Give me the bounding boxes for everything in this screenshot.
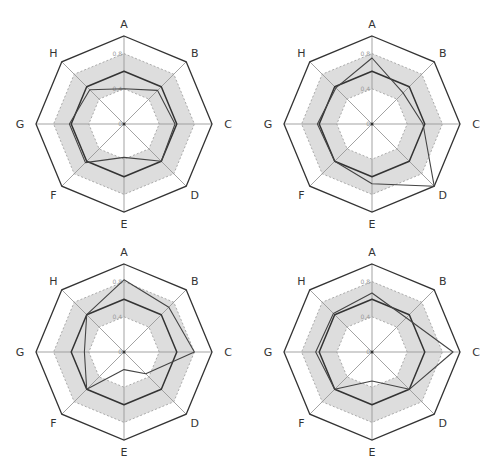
tick-label: 0	[118, 120, 122, 127]
axis-label-h: H	[297, 47, 305, 60]
radar-chart-grid: 00.40.8ABCDEFGH 00.40.8ABCDEFGH 00.40.8A…	[0, 0, 495, 472]
tick-label: 0.4	[112, 85, 122, 92]
axis-label-d: D	[438, 417, 446, 430]
axis-label-d: D	[190, 189, 198, 202]
radar-svg: 00.40.8ABCDEFGH	[248, 0, 495, 236]
axis-label-b: B	[439, 275, 447, 288]
axis-label-a: A	[368, 18, 376, 31]
axis-label-a: A	[120, 246, 128, 259]
tick-label: 0.8	[360, 278, 370, 285]
axis-label-d: D	[438, 189, 446, 202]
radar-svg: 00.40.8ABCDEFGH	[0, 0, 248, 236]
axis-label-h: H	[49, 275, 57, 288]
axis-label-c: C	[224, 118, 232, 131]
radar-svg: 00.40.8ABCDEFGH	[0, 228, 248, 464]
axis-label-c: C	[472, 346, 480, 359]
axis-label-g: G	[264, 118, 273, 131]
tick-label: 0.8	[112, 50, 122, 57]
axis-label-b: B	[439, 47, 447, 60]
axis-label-h: H	[49, 47, 57, 60]
tick-label: 0.8	[360, 50, 370, 57]
axis-label-d: D	[190, 417, 198, 430]
tick-label: 0.4	[360, 85, 370, 92]
axis-label-g: G	[264, 346, 273, 359]
axis-label-f: F	[50, 417, 56, 430]
axis-label-a: A	[120, 18, 128, 31]
radar-chart-4: 00.40.8ABCDEFGH	[248, 228, 495, 464]
axis-label-f: F	[50, 189, 56, 202]
radar-chart-2: 00.40.8ABCDEFGH	[248, 0, 495, 236]
axis-label-c: C	[472, 118, 480, 131]
axis-label-f: F	[298, 417, 304, 430]
center-point	[123, 351, 126, 354]
tick-label: 0.4	[360, 313, 370, 320]
axis-label-b: B	[191, 275, 199, 288]
axis-label-e: E	[369, 446, 376, 459]
tick-label: 0	[366, 348, 370, 355]
axis-label-b: B	[191, 47, 199, 60]
radar-chart-1: 00.40.8ABCDEFGH	[0, 0, 248, 236]
axis-label-c: C	[224, 346, 232, 359]
tick-label: 0	[366, 120, 370, 127]
tick-label: 0.4	[112, 313, 122, 320]
radar-svg: 00.40.8ABCDEFGH	[248, 228, 495, 464]
axis-label-a: A	[368, 246, 376, 259]
axis-label-h: H	[297, 275, 305, 288]
center-point	[123, 123, 126, 126]
axis-label-g: G	[16, 346, 25, 359]
axis-label-e: E	[121, 446, 128, 459]
center-point	[371, 123, 374, 126]
axis-label-f: F	[298, 189, 304, 202]
radar-chart-3: 00.40.8ABCDEFGH	[0, 228, 248, 464]
axis-label-g: G	[16, 118, 25, 131]
center-point	[371, 351, 374, 354]
tick-label: 0	[118, 348, 122, 355]
